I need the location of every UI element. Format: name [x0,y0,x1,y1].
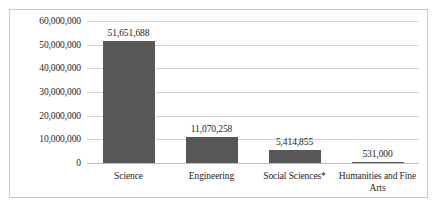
x-axis-category-label: Engineering [169,170,255,182]
x-axis-category-label: Science [86,170,172,182]
bar-group: 531,000Humanities and Fine Arts [352,21,404,163]
chart-frame: 60,000,00050,000,00040,000,00030,000,000… [9,9,428,198]
y-axis-tick-label: 10,000,000 [39,134,81,144]
y-axis-tick-label: 0 [76,158,81,168]
y-axis-tick-label: 50,000,000 [39,40,81,50]
plot-area: 60,000,00050,000,00040,000,00030,000,000… [87,21,419,163]
bar-value-label: 531,000 [362,149,392,159]
y-axis-tick-label: 20,000,000 [39,111,81,121]
gridline [87,163,419,164]
x-axis-category-label: Humanities and Fine Arts [335,170,421,194]
y-axis-tick-label: 60,000,000 [39,16,81,26]
bar[interactable] [269,150,321,163]
bar-group: 5,414,855Social Sciences* [269,21,321,163]
bar-value-label: 11,070,258 [191,124,232,134]
bar-group: 51,651,688Science [103,21,155,163]
bar[interactable] [186,137,238,163]
bar-value-label: 5,414,855 [276,137,313,147]
y-axis-tick-label: 40,000,000 [39,63,81,73]
y-axis-tick-label: 30,000,000 [39,87,81,97]
bar-group: 11,070,258Engineering [186,21,238,163]
x-axis-category-label: Social Sciences* [252,170,338,182]
bar[interactable] [352,162,404,164]
bar[interactable] [103,41,155,163]
bar-value-label: 51,651,688 [108,28,150,38]
